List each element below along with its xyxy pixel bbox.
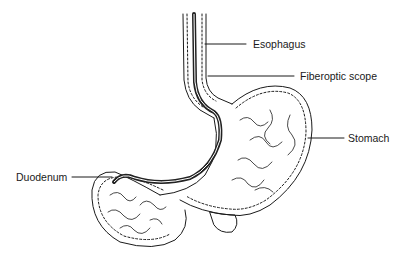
esophagus-wall-right: [206, 14, 232, 104]
stomach-illustration: [0, 0, 408, 258]
pylorus: [210, 212, 237, 232]
label-esophagus: Esophagus: [253, 38, 306, 50]
label-stomach: Stomach: [348, 132, 389, 144]
label-fiberoptic-scope: Fiberoptic scope: [300, 70, 377, 82]
fiberoptic-scope: [114, 14, 220, 182]
endoscopy-diagram: Esophagus Fiberoptic scope Stomach Duode…: [0, 0, 408, 258]
label-duodenum: Duodenum: [16, 171, 67, 183]
